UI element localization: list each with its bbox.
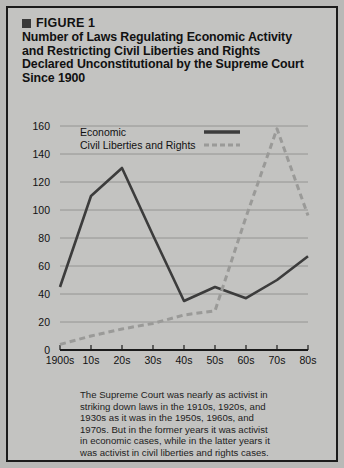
y-tick-label: 160 xyxy=(32,120,50,132)
figure-label: FIGURE 1 xyxy=(36,16,95,30)
chart-container: 020406080100120140160 1900s10s20s30s40s5… xyxy=(8,112,340,364)
series-line xyxy=(60,168,308,301)
caption-line-1: The Supreme Court was nearly as activist… xyxy=(80,389,332,401)
x-tick-label: 40s xyxy=(176,354,193,364)
x-tick-label: 50s xyxy=(207,354,224,364)
figure-bullet-icon xyxy=(22,19,31,28)
y-tick-label: 40 xyxy=(38,288,50,300)
line-chart: 020406080100120140160 1900s10s20s30s40s5… xyxy=(8,112,340,364)
caption-line-6: was activist in civil liberties and righ… xyxy=(80,447,332,459)
caption-line-4: 1970s. But in the former years it was ac… xyxy=(80,424,332,436)
x-tick-label: 20s xyxy=(114,354,131,364)
legend-label: Economic xyxy=(80,126,126,138)
page-title: Number of Laws Regulating Economic Activ… xyxy=(22,31,326,85)
y-tick-label: 20 xyxy=(38,316,50,328)
y-tick-label: 100 xyxy=(32,204,50,216)
figure-title-line-3: Declared Unconstitutional by the Supreme… xyxy=(22,58,326,72)
figure-caption: The Supreme Court was nearly as activist… xyxy=(80,389,332,459)
x-tick-label: 80s xyxy=(300,354,317,364)
chart-gridlines xyxy=(60,126,308,322)
y-tick-label: 140 xyxy=(32,148,50,160)
caption-line-2: striking down laws in the 1910s, 1920s, … xyxy=(80,401,332,413)
y-tick-label: 60 xyxy=(38,260,50,272)
x-tick-label: 10s xyxy=(83,354,100,364)
caption-line-5: in economic cases, while in the latter y… xyxy=(80,435,332,447)
figure-title-line-2: and Restricting Civil Liberties and Righ… xyxy=(22,45,326,59)
figure-title-line-4: Since 1900 xyxy=(22,72,326,86)
x-tick-label: 30s xyxy=(145,354,162,364)
figure-title-line-1: Number of Laws Regulating Economic Activ… xyxy=(22,31,326,45)
x-tick-label: 1900s xyxy=(46,354,75,364)
chart-x-axis-labels: 1900s10s20s30s40s50s60s70s80s xyxy=(46,354,317,364)
caption-line-3: 1930s as it was in the 1950s, 1960s, and xyxy=(80,412,332,424)
figure-label-row: FIGURE 1 xyxy=(22,16,326,30)
figure-card: FIGURE 1 Number of Laws Regulating Econo… xyxy=(6,6,338,462)
chart-y-axis-labels: 020406080100120140160 xyxy=(32,120,50,356)
chart-legend: EconomicCivil Liberties and Rights xyxy=(80,126,240,151)
series-line xyxy=(60,129,308,345)
y-tick-label: 80 xyxy=(38,232,50,244)
y-tick-label: 120 xyxy=(32,176,50,188)
chart-series-group xyxy=(60,129,308,345)
x-tick-label: 70s xyxy=(269,354,286,364)
legend-label: Civil Liberties and Rights xyxy=(80,139,196,151)
figure-title-block: FIGURE 1 Number of Laws Regulating Econo… xyxy=(22,16,326,85)
x-tick-label: 60s xyxy=(238,354,255,364)
